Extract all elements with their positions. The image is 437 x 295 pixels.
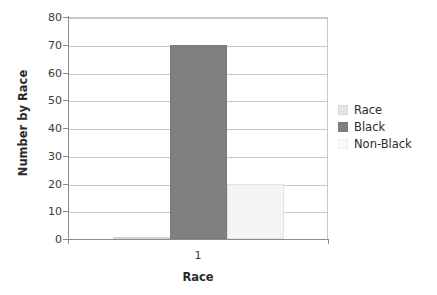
- bar-chart: 80 70 60 50 40 30 20 10 0 1 Race Number …: [0, 0, 437, 295]
- y-tick-80: [63, 17, 68, 18]
- x-tick-cat-1: [68, 239, 69, 244]
- legend-swatch-icon-non-black: [338, 139, 348, 149]
- y-axis-title: Number by Race: [16, 53, 30, 193]
- legend-swatch-icon-race: [338, 105, 348, 115]
- y-tick-10: [63, 211, 68, 212]
- bar-black: [170, 45, 227, 239]
- legend-label-non-black: Non-Black: [354, 137, 412, 151]
- bar-non-black: [227, 184, 284, 240]
- y-tick-label-10: 10: [14, 206, 62, 217]
- y-tick-20: [63, 184, 68, 185]
- plot-area: [68, 17, 328, 239]
- legend-item-black: Black: [338, 119, 434, 135]
- legend-item-non-black: Non-Black: [338, 136, 434, 152]
- y-tick-label-0: 0: [14, 234, 62, 245]
- legend-swatch-icon-black: [338, 122, 348, 132]
- legend-label-race: Race: [354, 103, 382, 117]
- y-axis-line: [68, 16, 69, 240]
- y-tick-50: [63, 100, 68, 101]
- y-tick-60: [63, 73, 68, 74]
- x-axis-line: [68, 239, 329, 240]
- legend-item-race: Race: [338, 102, 434, 118]
- y-tick-40: [63, 128, 68, 129]
- y-tick-70: [63, 45, 68, 46]
- x-tick-end: [328, 239, 329, 244]
- y-tick-30: [63, 156, 68, 157]
- y-tick-label-70: 70: [14, 40, 62, 51]
- x-axis-title: Race: [68, 270, 328, 284]
- legend-label-black: Black: [354, 120, 385, 134]
- x-category-label-1: 1: [168, 249, 228, 262]
- y-tick-label-80: 80: [14, 12, 62, 23]
- chart-legend: Race Black Non-Black: [338, 102, 434, 153]
- gridline-80: [68, 18, 327, 19]
